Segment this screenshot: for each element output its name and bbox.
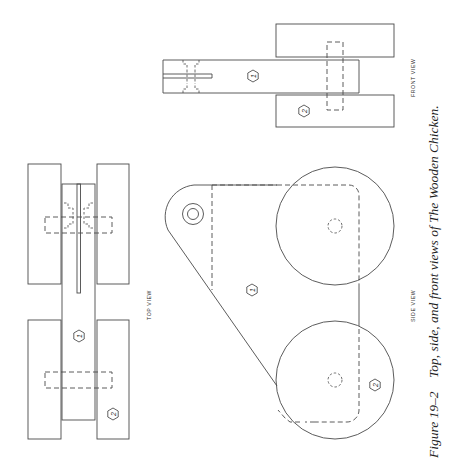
svg-text:2: 2	[372, 383, 379, 388]
part-1-marker: 1	[248, 70, 258, 82]
top-wheel-upper-left	[28, 164, 61, 284]
front-wheel-upper	[276, 24, 394, 57]
top-hidden-axle-front	[45, 217, 112, 233]
part-2-marker: 2	[370, 379, 380, 391]
top-wheel-lower-left	[28, 320, 61, 439]
top-wheel-upper-right	[97, 164, 129, 284]
wooden-chicken-drawing: 1 2 FRONT VIEW 1 2	[0, 0, 467, 465]
part-2-marker: 2	[108, 408, 118, 420]
front-slot	[163, 74, 212, 78]
svg-text:1: 1	[76, 334, 83, 338]
front-hidden-axle	[327, 42, 343, 110]
top-wheel-lower-right	[97, 320, 129, 439]
svg-text:1: 1	[250, 74, 257, 78]
front-view: 1 2 FRONT VIEW	[163, 24, 416, 127]
figure-caption: Figure 19–2 Top, side, and front views o…	[426, 105, 441, 459]
part-1-marker: 1	[74, 330, 84, 342]
front-view-label: FRONT VIEW	[410, 59, 416, 97]
svg-text:2: 2	[110, 412, 117, 417]
side-axle-hole-rear	[328, 373, 342, 387]
top-view-label: TOP VIEW	[146, 290, 152, 320]
side-body-outline	[165, 185, 277, 386]
top-view: 1 2 TOP VIEW	[28, 164, 152, 439]
top-body	[62, 184, 95, 420]
side-axle-hole-front	[328, 219, 342, 233]
side-pivot-outer	[183, 204, 204, 225]
svg-text:1: 1	[249, 288, 256, 292]
part-2-marker: 2	[299, 105, 309, 117]
side-view: 1 2 SIDE VIEW	[165, 167, 416, 439]
top-slot	[77, 184, 81, 293]
figure-number: Figure 19–2	[426, 391, 441, 459]
part-1-marker: 1	[247, 284, 257, 296]
svg-text:2: 2	[301, 109, 308, 114]
front-hidden-pivot	[183, 60, 199, 93]
side-view-label: SIDE VIEW	[410, 290, 416, 322]
front-body	[163, 60, 359, 93]
top-hidden-pivot	[64, 203, 93, 228]
figure-caption-text: Top, side, and front views of The Wooden…	[426, 105, 441, 378]
top-hidden-axle-rear	[45, 372, 112, 388]
side-hidden-body	[212, 185, 359, 422]
front-wheel-lower	[276, 95, 394, 127]
side-pivot-inner	[188, 209, 199, 220]
